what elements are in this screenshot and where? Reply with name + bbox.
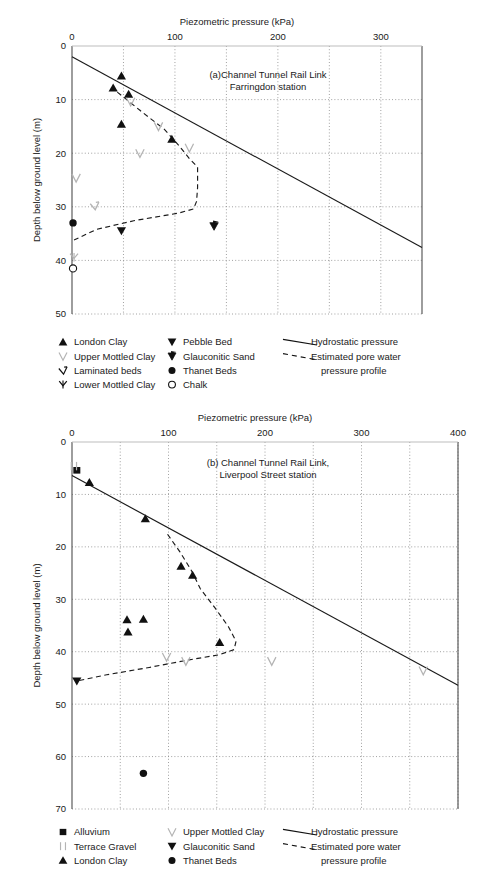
marker-square [60,829,67,835]
marker-triangle-up [109,83,118,91]
legend-item-label: Hydrostatic pressure [311,336,398,347]
chart-annotation-title: (b) Channel Tunnel Rail Link, [207,457,330,468]
chart-panel-a: 010020030001020304050Piezometric pressur… [0,0,500,400]
marker-triangle-up [123,627,132,635]
series-laminated-beds [90,202,99,210]
x-tick-label: 0 [69,427,74,438]
marker-triangle-up [124,90,133,98]
pore-pressure-profile-line [77,534,236,681]
legend-item-label: Upper Mottled Clay [183,826,265,837]
marker-vee [185,144,193,152]
legend-item-label: Lower Mottled Clay [74,379,156,390]
marker-vee [419,667,427,675]
y-axis-title: Depth below ground level (m) [31,563,42,687]
marker-circle [140,770,147,777]
chart-annotation-subtitle: Liverpool Street station [219,469,316,480]
legend-item-label: Chalk [183,379,208,390]
x-tick-label: 100 [161,427,177,438]
chart-a-canvas: 010020030001020304050Piezometric pressur… [0,0,500,400]
legend-item-label: Pebble Bed [183,336,232,347]
legend-item-label: Upper Mottled Clay [74,351,156,362]
marker-triangle-up [139,615,148,623]
legend-item-label: Terrace Gravel [74,841,136,852]
marker-circle-open [169,381,176,388]
marker-vee-stem [59,381,67,389]
x-tick-label: 200 [257,427,273,438]
legend-item-label: Thanet Beds [183,365,237,376]
series-glauconitic-sand [72,677,81,685]
marker-vee-tilt [90,202,99,210]
y-tick-label: 50 [55,308,66,319]
marker-vee-tilt [59,367,67,374]
marker-circle [69,219,76,226]
marker-triangle-up [188,571,197,579]
chart-annotation-title: (a)Channel Tunnel Rail Link [209,69,326,80]
marker-triangle-up [117,72,126,80]
legend-item-label: London Clay [74,336,128,347]
chart-b-canvas: 0100200300400010203040506070Piezometric … [0,400,500,890]
marker-triangle-down [72,677,81,685]
marker-vee [72,174,80,182]
chart-panel-b: 0100200300400010203040506070Piezometric … [0,400,500,890]
marker-vee-flag [210,220,219,230]
marker-vee [59,352,67,360]
marker-vee-stem [70,253,78,261]
marker-triangle-up [215,638,224,646]
marker-circle-open [69,265,76,272]
chart-legend: London ClayUpper Mottled ClayLaminated b… [59,336,401,390]
x-tick-label: 300 [373,31,389,42]
pore-pressure-profile-line [74,92,198,240]
marker-vee [168,828,176,836]
legend-item-label: pressure profile [321,365,386,376]
y-tick-label: 60 [55,751,66,762]
marker-triangle-down [117,227,126,235]
legend-item-label: Estimated pore water [311,841,401,852]
series-glauconitic-sand [210,220,219,230]
marker-triangle-up [122,615,131,623]
y-tick-label: 20 [55,148,66,159]
marker-circle [168,367,175,374]
x-tick-label: 300 [354,427,370,438]
x-axis-title: Piezometric pressure (kPa) [198,412,313,423]
legend-item-label: Estimated pore water [311,351,401,362]
y-tick-label: 10 [55,94,66,105]
series-upper-mottled-clay [72,98,194,182]
y-tick-label: 70 [55,803,66,814]
marker-vee [268,657,276,665]
legend-item-label: Alluvium [74,826,110,837]
x-tick-label: 400 [450,427,466,438]
figure-piezometric-pressure-profiles: 010020030001020304050Piezometric pressur… [0,0,500,890]
legend-item-label: Hydrostatic pressure [311,826,398,837]
series-upper-mottled-clay [162,653,427,675]
legend-item-label: Glauconitic Sand [183,841,255,852]
legend-item-label: Glauconitic Sand [183,351,255,362]
series-london-clay [85,478,224,646]
x-tick-label: 0 [69,31,74,42]
series-lower-mottled-clay [70,253,78,261]
y-tick-label: 0 [61,40,66,51]
marker-bars [61,842,66,850]
x-tick-label: 100 [167,31,183,42]
y-tick-label: 40 [55,646,66,657]
x-axis-title: Piezometric pressure (kPa) [180,16,295,27]
y-tick-label: 20 [55,541,66,552]
marker-triangle-up [59,338,68,346]
series-pebble-bed [117,227,126,235]
y-tick-label: 0 [61,436,66,447]
marker-triangle-up [85,478,94,486]
grid-lines [72,442,458,809]
legend-item-label: pressure profile [321,855,386,866]
y-tick-label: 30 [55,594,66,605]
y-tick-label: 50 [55,699,66,710]
y-tick-label: 40 [55,255,66,266]
legend-item-label: Laminated beds [74,365,142,376]
x-tick-label: 200 [270,31,286,42]
series-thanet-beds [140,770,147,777]
series-chalk [69,265,76,272]
marker-triangle-up [117,120,126,128]
chart-annotation-subtitle: Farringdon station [230,81,307,92]
marker-circle [168,857,175,864]
series-thanet-beds [69,219,76,226]
y-tick-label: 30 [55,201,66,212]
y-axis-title: Depth below ground level (m) [31,118,42,242]
